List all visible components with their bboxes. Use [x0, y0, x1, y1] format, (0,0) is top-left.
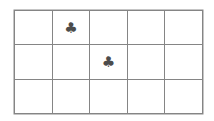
grid-cell-r3-c5[interactable] [165, 79, 203, 113]
grid-cell-r2-c2[interactable] [52, 45, 90, 79]
grid-cell-r1-c4[interactable] [127, 11, 165, 45]
canvas: ♣♣ [0, 0, 214, 121]
grid-row: ♣ [15, 45, 203, 79]
grid-cell-r1-c5[interactable] [165, 11, 203, 45]
club-suit-icon: ♣ [64, 21, 77, 36]
grid-cell-r3-c2[interactable] [52, 79, 90, 113]
grid-row [15, 79, 203, 113]
grid-cell-r1-c2[interactable]: ♣ [52, 11, 90, 45]
grid-cell-r2-c1[interactable] [15, 45, 53, 79]
grid-cell-r2-c3[interactable]: ♣ [90, 45, 128, 79]
grid-cell-r2-c5[interactable] [165, 45, 203, 79]
suit-grid-body: ♣♣ [15, 11, 203, 114]
grid-cell-r1-c1[interactable] [15, 11, 53, 45]
suit-grid: ♣♣ [14, 10, 203, 114]
grid-row: ♣ [15, 11, 203, 45]
grid-cell-r1-c3[interactable] [90, 11, 128, 45]
grid-cell-r3-c4[interactable] [127, 79, 165, 113]
grid-cell-r3-c3[interactable] [90, 79, 128, 113]
grid-cell-r2-c4[interactable] [127, 45, 165, 79]
grid-cell-r3-c1[interactable] [15, 79, 53, 113]
club-suit-icon: ♣ [102, 55, 115, 70]
